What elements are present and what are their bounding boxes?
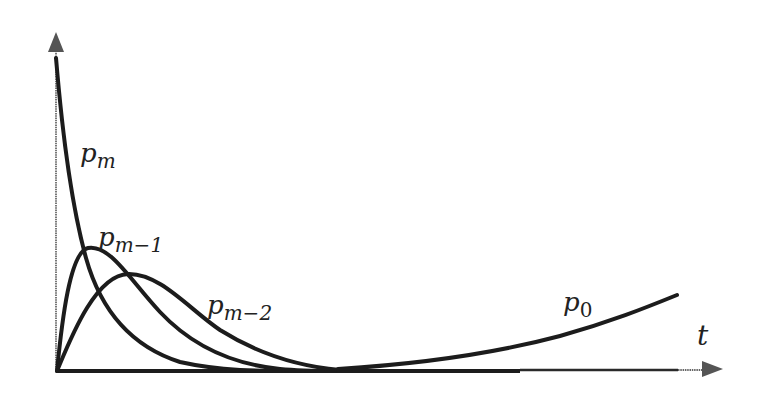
curve-pm-2 — [57, 274, 340, 371]
curve-p0 — [338, 295, 677, 369]
y-axis-arrow-icon — [48, 32, 64, 52]
label-pm: pm — [80, 138, 116, 173]
x-axis-label: t — [697, 319, 709, 352]
label-pm-1: pm−1 — [98, 222, 163, 257]
label-pm-2: pm−2 — [207, 290, 272, 325]
diagram-canvas: pm pm−1 pm−2 p0 t — [0, 0, 760, 398]
x-axis-arrow-icon — [702, 361, 723, 377]
label-p0: p0 — [563, 287, 592, 322]
